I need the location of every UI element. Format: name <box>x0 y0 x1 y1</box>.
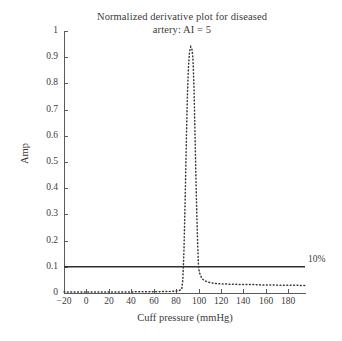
y-axis-label: Amp <box>19 124 30 184</box>
series-normalized-derivative <box>64 47 305 292</box>
chart-figure: Normalized derivative plot for diseased … <box>0 0 342 341</box>
chart-curves <box>0 0 342 341</box>
threshold-annotation-label: 10% <box>308 254 325 264</box>
x-axis-label: Cuff pressure (mmHg) <box>64 312 306 323</box>
